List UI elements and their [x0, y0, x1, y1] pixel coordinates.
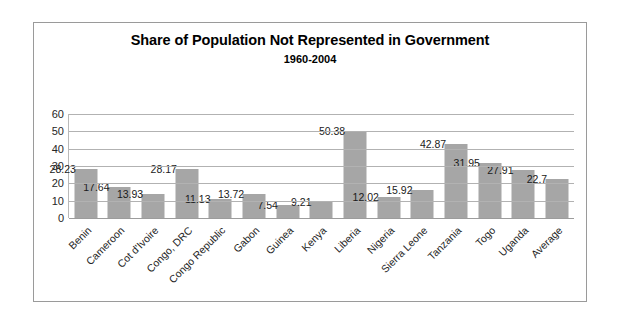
plot-area: 6050403020100 28.2317.6413.9328.1711.131…	[68, 114, 574, 218]
gridline	[69, 149, 574, 150]
y-tick-label: 50	[52, 125, 64, 137]
x-label-slot: Guinea	[270, 218, 304, 298]
gridline	[69, 218, 574, 219]
gridline	[69, 183, 574, 184]
gridline	[69, 131, 574, 132]
x-tick-label: Benin	[66, 224, 93, 251]
x-label-slot: Gabon	[236, 218, 270, 298]
x-label-slot: Togo	[472, 218, 506, 298]
x-label-slot: Congo Republic	[203, 218, 237, 298]
y-tick-label: 60	[52, 108, 64, 120]
y-tick-label: 20	[52, 177, 64, 189]
x-label-slot: Tanzania	[438, 218, 472, 298]
gridline	[69, 166, 574, 167]
bar[interactable]	[74, 169, 97, 218]
bar-value-label: 13.72	[218, 188, 244, 200]
x-tick-label: Gabon	[231, 224, 262, 255]
chart-subtitle: 1960-2004	[34, 53, 586, 65]
chart-title: Share of Population Not Represented in G…	[34, 31, 586, 50]
x-axis-category-labels: BeninCameroonCot d'IvoireCongo, DRCCongo…	[68, 218, 573, 298]
bar[interactable]	[142, 194, 165, 218]
bar-value-label: 28.17	[151, 163, 177, 175]
bar-value-label: 15.92	[386, 184, 412, 196]
x-tick-label: Liberia	[332, 224, 363, 255]
gridline	[69, 201, 574, 202]
y-tick-label: 0	[58, 212, 64, 224]
chart-frame: Share of Population Not Represented in G…	[33, 22, 587, 302]
y-tick-label: 40	[52, 143, 64, 155]
gridline	[69, 114, 574, 115]
x-label-slot: Average	[539, 218, 573, 298]
title-block: Share of Population Not Represented in G…	[34, 31, 586, 65]
x-tick-label: Kenya	[299, 224, 329, 254]
x-label-slot: Liberia	[337, 218, 371, 298]
bar[interactable]	[411, 190, 434, 218]
bar[interactable]	[310, 202, 333, 218]
x-label-slot: Kenya	[304, 218, 338, 298]
bar[interactable]	[445, 144, 468, 218]
bar-value-label: 9.21	[291, 196, 311, 208]
bar-value-label: 11.13	[185, 193, 211, 205]
bar[interactable]	[344, 131, 367, 218]
y-tick-label: 10	[52, 195, 64, 207]
x-tick-label: Togo	[473, 224, 498, 249]
bar-value-label: 13.93	[117, 188, 143, 200]
bar[interactable]	[546, 179, 569, 218]
bar-value-label: 28.23	[50, 163, 76, 175]
